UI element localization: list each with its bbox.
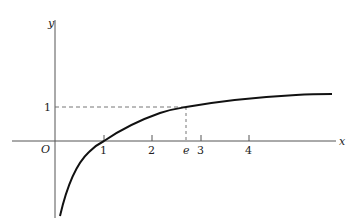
x-tick-label-4: 4: [245, 144, 252, 157]
x-tick-label-e: e: [183, 144, 190, 157]
y-axis-label: y: [47, 17, 55, 30]
x-tick-label-1: 1: [100, 144, 107, 157]
origin-label: O: [41, 143, 50, 156]
ln-graph: y x O 1 1 2 e 3 4: [0, 0, 356, 224]
y-tick-label-1: 1: [44, 101, 51, 114]
x-tick-label-3: 3: [197, 144, 204, 157]
x-tick-label-2: 2: [148, 144, 155, 157]
chart-svg: y x O 1 1 2 e 3 4: [0, 0, 356, 224]
x-axis-label: x: [339, 135, 346, 148]
